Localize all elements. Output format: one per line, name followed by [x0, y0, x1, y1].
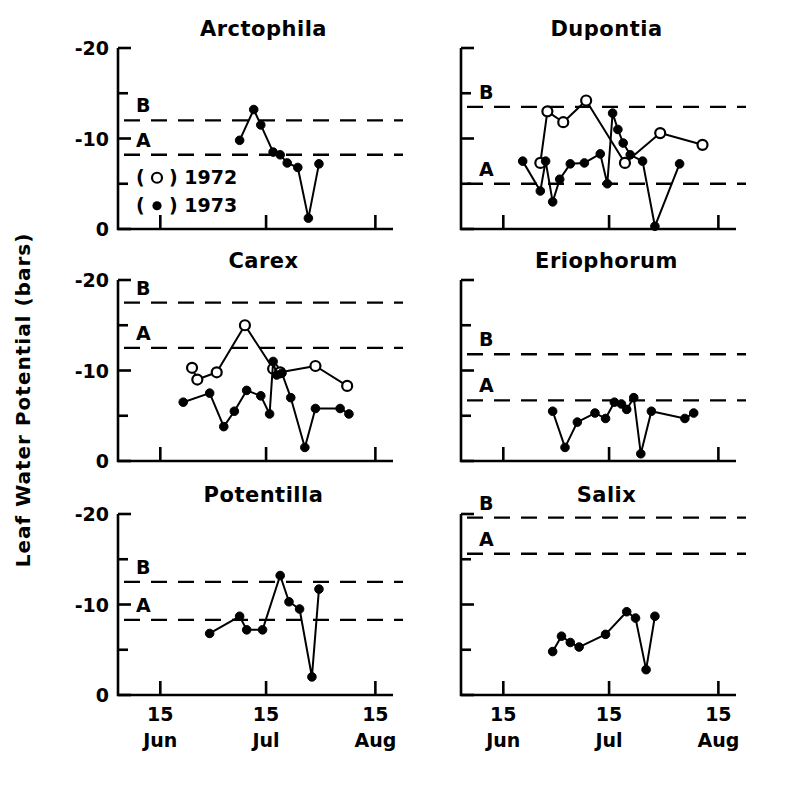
reference-line-label-B: B [479, 81, 493, 103]
data-point-1973 [608, 109, 617, 118]
data-point-1973 [596, 150, 605, 159]
reference-line-label-A: A [479, 528, 494, 550]
panel-title: Carex [228, 249, 298, 273]
data-point-1973 [315, 160, 324, 169]
data-point-1973 [336, 404, 345, 413]
data-point-1973 [566, 638, 575, 647]
data-point-1973 [629, 393, 638, 402]
data-point-1973 [603, 179, 612, 188]
legend-marker-open-circle [152, 173, 162, 183]
panel-dupontia: BADupontia [461, 17, 746, 231]
reference-line-label-B: B [136, 277, 150, 299]
reference-line-label-A: A [479, 158, 494, 180]
reference-line-label-A: A [136, 594, 151, 616]
data-point-1973 [278, 369, 287, 378]
panel-title: Arctophila [200, 17, 327, 41]
data-point-1972 [187, 363, 197, 373]
y-tick-label: -20 [75, 37, 109, 59]
data-point-1972 [581, 95, 591, 105]
data-point-1973 [242, 626, 251, 635]
data-point-1973 [637, 449, 646, 458]
data-point-1973 [285, 597, 294, 606]
y-tick-label: -10 [75, 594, 109, 616]
data-point-1973 [622, 607, 631, 616]
data-point-1973 [651, 222, 660, 231]
data-point-1973 [258, 626, 267, 635]
legend-label-1972: ) 1972 [169, 166, 237, 188]
data-point-1973 [573, 418, 582, 427]
data-point-1973 [315, 585, 324, 594]
data-point-1973 [518, 157, 527, 166]
data-point-1973 [548, 407, 557, 416]
legend-entry-1973: ( [136, 194, 145, 216]
data-point-1973 [269, 357, 278, 366]
data-point-1973 [256, 121, 265, 130]
data-point-1973 [622, 405, 631, 414]
x-tick-label-day: 15 [705, 703, 731, 725]
data-point-1973 [219, 422, 228, 431]
data-point-1973 [295, 605, 304, 614]
panel-salix: BASalix [461, 483, 746, 695]
reference-line-label-A: A [136, 322, 151, 344]
series-line-1973 [183, 361, 349, 447]
data-point-1973 [561, 443, 570, 452]
data-point-1973 [265, 410, 274, 419]
data-point-1973 [566, 160, 575, 169]
x-tick-label-month: Jun [141, 729, 177, 751]
x-tick-label-month: Jul [594, 729, 623, 751]
axis-spine [461, 280, 736, 461]
data-point-1973 [249, 105, 258, 114]
data-point-1972 [342, 381, 352, 391]
x-tick-label-day: 15 [362, 703, 388, 725]
series-line-1973 [240, 110, 319, 219]
panel-title: Dupontia [550, 17, 662, 41]
data-point-1973 [276, 571, 285, 580]
data-point-1973 [557, 632, 566, 641]
data-point-1973 [638, 157, 647, 166]
axis-spine [461, 48, 736, 229]
data-point-1972 [558, 117, 568, 127]
data-point-1973 [242, 386, 251, 395]
data-point-1973 [689, 409, 698, 418]
x-tick-label-day: 15 [253, 703, 279, 725]
data-point-1972 [542, 106, 552, 116]
data-point-1973 [580, 159, 589, 168]
x-tick-label-month: Aug [697, 729, 739, 751]
data-point-1972 [620, 158, 630, 168]
x-tick-label-day: 15 [490, 703, 516, 725]
axis-spine [461, 514, 736, 695]
y-tick-label: 0 [96, 450, 109, 472]
data-point-1973 [235, 612, 244, 621]
reference-line-label-A: A [479, 374, 494, 396]
x-tick-label-month: Jun [484, 729, 520, 751]
data-point-1973 [541, 157, 550, 166]
data-point-1972 [310, 361, 320, 371]
y-tick-label: 0 [96, 218, 109, 240]
data-point-1973 [651, 612, 660, 621]
data-point-1972 [192, 375, 202, 385]
y-tick-label: -20 [75, 269, 109, 291]
data-point-1973 [308, 673, 317, 682]
data-point-1973 [294, 163, 303, 172]
axis-spine [118, 514, 393, 695]
data-point-1973 [311, 404, 320, 413]
y-tick-label: -20 [75, 503, 109, 525]
data-point-1973 [575, 643, 584, 652]
legend-label-1973: ) 1973 [169, 194, 237, 216]
panel-title: Eriophorum [535, 249, 678, 273]
data-point-1973 [681, 414, 690, 423]
legend-entry-1972: ( [136, 166, 145, 188]
data-point-1973 [286, 393, 295, 402]
data-point-1973 [626, 150, 635, 159]
data-point-1973 [548, 647, 557, 656]
legend: () 1972() 1973 [136, 166, 237, 216]
data-point-1973 [230, 407, 239, 416]
y-tick-label: -10 [75, 360, 109, 382]
x-tick-label-month: Jul [251, 729, 280, 751]
panel-arctophila: -20-100BAArctophila [75, 17, 403, 240]
panel-eriophorum: BAEriophorum [461, 249, 746, 461]
data-point-1972 [212, 367, 222, 377]
data-point-1973 [619, 139, 628, 148]
data-point-1973 [631, 614, 640, 623]
panel-carex: -20-100BACarex [75, 249, 403, 472]
